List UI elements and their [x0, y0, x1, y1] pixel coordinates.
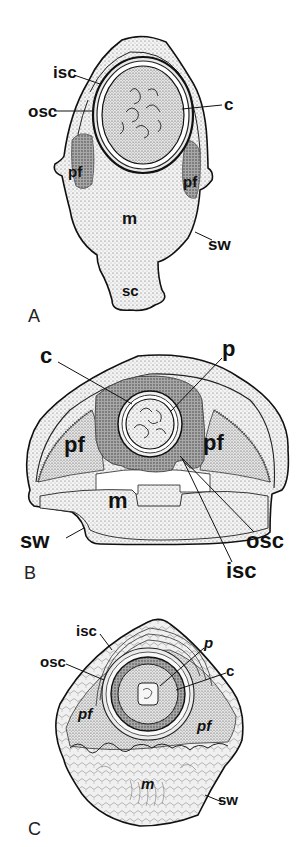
panel-c-drawing: [56, 619, 243, 826]
panel-c-label-osc: osc: [40, 654, 66, 669]
panel-c-label-p: p: [204, 635, 213, 650]
panel-c-label-pf-right: pf: [197, 718, 211, 733]
panel-b-letter: B: [24, 564, 36, 582]
panel-a-label-m: m: [122, 210, 137, 227]
panel-a-label-sc: sc: [122, 283, 139, 298]
panel-a-label-pf-left: pf: [68, 164, 82, 179]
panel-b-label-c: c: [40, 345, 52, 367]
panel-a-label-sw: sw: [208, 236, 231, 253]
panel-a-label-c: c: [224, 96, 233, 113]
panel-b-label-pf-left: pf: [64, 434, 85, 456]
panel-b-label-m: m: [108, 490, 128, 512]
panel-c-label-c: c: [226, 663, 234, 678]
panel-c-letter: C: [28, 820, 41, 838]
panel-c-label-pf-left: pf: [78, 706, 92, 721]
panel-a-label-isc: isc: [53, 64, 77, 81]
panel-a-label-osc: osc: [28, 103, 57, 120]
panel-c-label-isc: isc: [76, 623, 97, 638]
panel-a-letter: A: [28, 307, 40, 325]
panel-b-label-sw: sw: [20, 530, 49, 552]
figure-drawings: [0, 0, 303, 847]
panel-b-label-osc: osc: [246, 530, 284, 552]
panel-b-label-p: p: [222, 338, 235, 360]
figure: isc osc c pf pf m sw sc A c p pf pf m sw…: [0, 0, 303, 847]
panel-c-label-m: m: [141, 776, 154, 791]
panel-c-label-sw: sw: [218, 792, 238, 807]
panel-a-label-pf-right: pf: [183, 174, 197, 189]
panel-b-label-isc: isc: [226, 560, 257, 582]
panel-b-label-pf-right: pf: [203, 432, 224, 454]
